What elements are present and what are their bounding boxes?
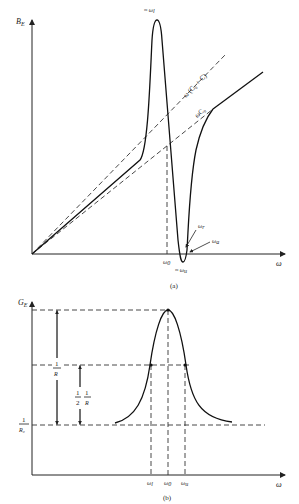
line-omega-c0 (32, 109, 213, 254)
trough-label: ≈ ωu (175, 267, 187, 274)
conductance-curve (115, 310, 232, 423)
a-x-axis-label: ω (276, 259, 282, 268)
b-omega-u-label: ωu (181, 480, 188, 487)
peak-dot (166, 308, 169, 311)
diagram-b: GE ω 1 R 1 2 1 R 1 R₀ (18, 298, 285, 502)
omega-a-label: ωa (212, 238, 219, 245)
b-y-axis-label: GE (18, 298, 28, 308)
half-num: 1 (76, 389, 80, 397)
peak-label: ≈ ωl (144, 7, 155, 14)
one-over-r0-num: 1 (22, 416, 26, 424)
b-omega0-label: ω0 (164, 480, 171, 487)
half-left-dot (149, 363, 152, 366)
caption-b: (b) (163, 494, 172, 502)
a-omega0-label: ω0 (163, 259, 170, 266)
b-omega-l-label: ωl (147, 480, 153, 487)
line-omega-c0-plus-c-label: ω (C₀ + C) (182, 72, 209, 100)
half-r-num: 1 (85, 389, 89, 397)
one-over-r-num: 1 (55, 360, 59, 368)
caption-a: (a) (170, 282, 178, 290)
half-den: 2 (76, 399, 80, 407)
omega-r-label: ωr (198, 223, 205, 230)
one-over-r-den: R (53, 371, 58, 377)
line-omega-c0-label: ωC₀ (193, 106, 208, 120)
half-right-dot (183, 363, 186, 366)
susceptance-curve (32, 20, 213, 262)
b-x-axis-label: ω (276, 480, 282, 489)
a-y-axis-label: BE (16, 17, 25, 27)
half-r-den: R (84, 400, 89, 406)
one-over-r0-den: R₀ (18, 427, 25, 433)
omega-a-pointer (190, 242, 210, 252)
diagram-canvas: BE ω ω (C₀ + C) ωC₀ ≈ ωl ω0 ωr ωa ≈ ωu (… (0, 0, 299, 504)
diagram-a: BE ω ω (C₀ + C) ωC₀ ≈ ωl ω0 ωr ωa ≈ ωu (… (16, 7, 285, 290)
line-omega-c0-solid (213, 72, 263, 109)
